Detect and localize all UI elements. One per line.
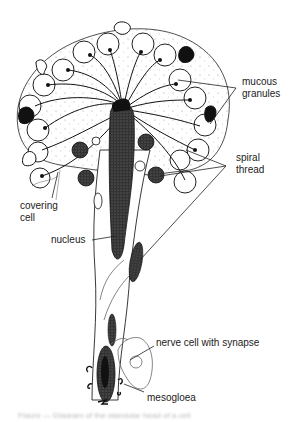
label-spiral-thread: spiral thread	[236, 152, 264, 176]
label-mesogloea: mesogloea	[147, 392, 196, 404]
label-mucous-granules: mucous granules	[242, 76, 280, 100]
label-nerve-cell: nerve cell with synapse	[156, 337, 259, 349]
figure-caption: Figure — Diagram of the glandular head o…	[18, 412, 280, 418]
label-covering-cell: covering cell	[20, 200, 58, 224]
label-nucleus: nucleus	[51, 234, 85, 246]
